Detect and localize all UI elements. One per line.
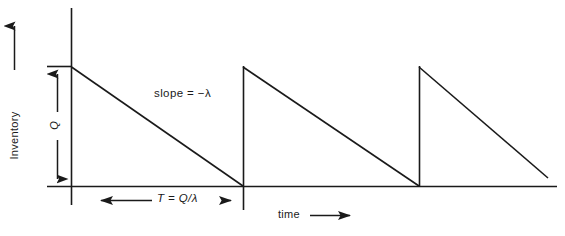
cycle-length-label: T = Q/λ (157, 193, 198, 205)
figure-canvas (0, 0, 565, 236)
y-axis-label: Inventory (9, 101, 20, 171)
depletion-line-cycle-2 (243, 67, 419, 186)
order-quantity-label: Q (49, 121, 60, 130)
x-axis-label: time (278, 209, 300, 220)
slope-annotation-label: slope = −λ (154, 88, 211, 100)
depletion-line-cycle-1 (72, 67, 244, 186)
inventory-sawtooth-figure: Inventory time Q slope = −λ T = Q/λ (0, 0, 565, 236)
depletion-line-cycle-3 (419, 67, 548, 178)
